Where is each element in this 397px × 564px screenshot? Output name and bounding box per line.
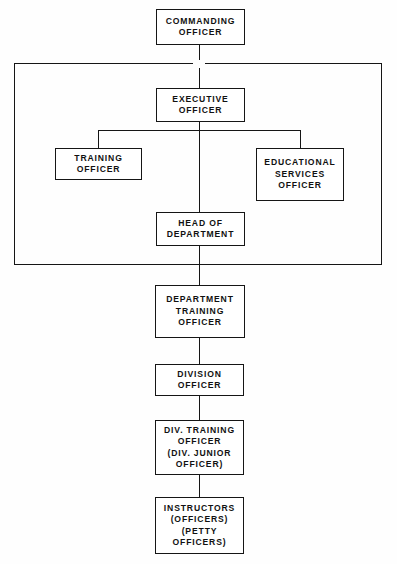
node-line: EXECUTIVE <box>172 94 228 105</box>
node-line: OFFICERS) <box>173 537 227 548</box>
node-line: TRAINING <box>176 306 224 317</box>
node-line: OFFICER <box>178 380 222 391</box>
org-chart-figure: COMMANDING OFFICER EXECUTIVE OFFICER TRA… <box>0 0 397 564</box>
node-department-training-officer[interactable]: DEPARTMENT TRAINING OFFICER <box>155 285 245 338</box>
node-line: OFFICER <box>77 164 121 175</box>
connector-div-training-to-instructors <box>199 475 200 497</box>
connector-branch-to-training-officer <box>98 130 99 148</box>
node-line: DEPARTMENT <box>166 294 234 305</box>
frame-top-gap-mask <box>193 60 205 68</box>
node-line: DIV. TRAINING <box>164 425 235 436</box>
node-line: OFFICER <box>178 317 222 328</box>
node-line: OFFICER <box>179 105 223 116</box>
connector-dept-training-to-division <box>199 338 200 364</box>
node-line: EDUCATIONAL <box>264 157 335 168</box>
connector-division-to-div-training <box>199 396 200 420</box>
node-instructors[interactable]: INSTRUCTORS (OFFICERS) (PETTY OFFICERS) <box>155 497 244 554</box>
node-line: (OFFICERS) <box>171 514 229 525</box>
connector-branch-to-head-of-department <box>199 130 200 212</box>
node-line: (DIV. JUNIOR <box>168 448 232 459</box>
node-line: DEPARTMENT <box>167 229 235 240</box>
node-executive-officer[interactable]: EXECUTIVE OFFICER <box>156 88 245 122</box>
node-educational-services-officer[interactable]: EDUCATIONAL SERVICES OFFICER <box>256 148 344 201</box>
node-line: OFFICER <box>178 436 222 447</box>
node-line: OFFICER) <box>176 459 223 470</box>
node-head-of-department[interactable]: HEAD OF DEPARTMENT <box>156 212 245 246</box>
connector-hod-to-dept-training <box>199 246 200 285</box>
node-line: OFFICER <box>179 27 223 38</box>
node-line: COMMANDING <box>166 16 236 27</box>
node-line: DIVISION <box>177 369 222 380</box>
node-training-officer[interactable]: TRAINING OFFICER <box>55 148 142 180</box>
node-line: SERVICES <box>275 169 325 180</box>
node-line: (PETTY <box>182 526 218 537</box>
node-division-officer[interactable]: DIVISION OFFICER <box>155 364 244 396</box>
node-line: HEAD OF <box>178 218 223 229</box>
connector-branch-to-educational-services <box>300 130 301 148</box>
node-commanding-officer[interactable]: COMMANDING OFFICER <box>156 9 245 45</box>
node-div-training-officer[interactable]: DIV. TRAINING OFFICER (DIV. JUNIOR OFFIC… <box>155 420 244 475</box>
node-line: OFFICER <box>278 180 322 191</box>
node-line: INSTRUCTORS <box>164 503 235 514</box>
node-line: TRAINING <box>74 153 122 164</box>
